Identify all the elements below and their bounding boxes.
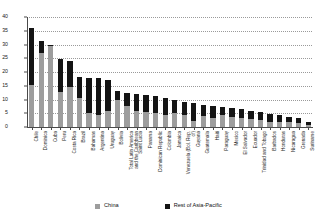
bar-group bbox=[39, 41, 44, 127]
x-axis-category-label: Colombia bbox=[167, 131, 172, 150]
bar-group bbox=[201, 105, 206, 127]
x-axis-tick-mark bbox=[51, 127, 52, 130]
x-axis-category-label: El Salvador bbox=[243, 131, 248, 155]
bar-segment-china bbox=[163, 115, 168, 127]
x-axis-category-label: Bolivia bbox=[119, 131, 124, 145]
bar-group bbox=[124, 93, 129, 127]
bar-group bbox=[191, 103, 196, 127]
x-axis-category-label: Dominican Republic bbox=[158, 131, 163, 172]
bar-group bbox=[258, 112, 263, 127]
bar-segment-rest-of-asia-pacific bbox=[96, 78, 101, 115]
bar-segment-china bbox=[58, 92, 63, 127]
x-axis-category-label: Peru bbox=[62, 131, 67, 141]
bar-group bbox=[210, 106, 215, 127]
bar-segment-china bbox=[248, 119, 253, 127]
x-axis-tick-mark bbox=[99, 127, 100, 130]
bar-segment-china bbox=[134, 111, 139, 127]
x-axis-labels: ChileDominicaCubaPeruCosta RicaBrazilBah… bbox=[27, 131, 313, 201]
bar-segment-china bbox=[48, 46, 53, 127]
y-axis-tick-label: 35 bbox=[0, 28, 8, 33]
x-axis-category-label: Grenada bbox=[301, 131, 306, 149]
x-axis-tick-mark bbox=[270, 127, 271, 130]
bar-group bbox=[153, 96, 158, 127]
legend-item: Rest of Asia-Pacific bbox=[165, 203, 222, 209]
y-axis-tick-label: 5 bbox=[0, 111, 8, 116]
y-axis-tick-label: 20 bbox=[0, 69, 8, 74]
bar-segment-rest-of-asia-pacific bbox=[248, 111, 253, 120]
bar-segment-rest-of-asia-pacific bbox=[210, 106, 215, 118]
x-axis-tick-mark bbox=[184, 127, 185, 130]
bar-segment-china bbox=[229, 117, 234, 127]
bar-segment-rest-of-asia-pacific bbox=[67, 61, 72, 87]
bar-segment-china bbox=[258, 120, 263, 127]
bar-segment-china bbox=[153, 113, 158, 127]
x-axis-tick-mark bbox=[213, 127, 214, 130]
x-axis-tick-mark bbox=[146, 127, 147, 130]
bar-group bbox=[105, 80, 110, 127]
x-axis-category-label: Cuba bbox=[53, 131, 58, 142]
bar-segment-china bbox=[96, 115, 101, 127]
legend-swatch bbox=[165, 204, 170, 209]
x-axis-category-label: Argentina bbox=[100, 131, 105, 151]
x-axis-category-label: Venezuela (Bol. Rep. of) bbox=[186, 131, 196, 175]
x-axis-category-label: Bahamas bbox=[91, 131, 96, 150]
bar-segment-rest-of-asia-pacific bbox=[229, 108, 234, 117]
x-axis-category-label: Suriname bbox=[310, 131, 315, 151]
bar-segment-china bbox=[143, 112, 148, 127]
bar-segment-rest-of-asia-pacific bbox=[58, 59, 63, 91]
x-axis-tick-mark bbox=[137, 127, 138, 130]
x-axis-tick-mark bbox=[280, 127, 281, 130]
x-axis-category-label: Mexico bbox=[234, 131, 239, 146]
bar-segment-rest-of-asia-pacific bbox=[239, 109, 244, 118]
bar-group bbox=[220, 107, 225, 127]
bar-segment-china bbox=[86, 113, 91, 127]
chart-legend: ChinaRest of Asia-Pacific bbox=[95, 200, 265, 212]
bar-segment-rest-of-asia-pacific bbox=[39, 41, 44, 53]
x-axis-tick-mark bbox=[70, 127, 71, 130]
x-axis-tick-mark bbox=[108, 127, 109, 130]
bar-group bbox=[48, 45, 53, 127]
x-axis-tick-mark bbox=[60, 127, 61, 130]
bar-segment-china bbox=[105, 111, 110, 128]
bar-segment-china bbox=[201, 116, 206, 127]
bar-group bbox=[134, 94, 139, 127]
bar-segment-rest-of-asia-pacific bbox=[105, 80, 110, 110]
bar-group bbox=[163, 98, 168, 127]
bar-group bbox=[248, 111, 253, 127]
x-axis-tick-mark bbox=[203, 127, 204, 130]
bar-segment-china bbox=[172, 113, 177, 127]
x-axis-category-label: Jamaica bbox=[177, 131, 182, 148]
x-axis-tick-mark bbox=[194, 127, 195, 130]
bar-segment-rest-of-asia-pacific bbox=[258, 112, 263, 120]
bar-segment-rest-of-asia-pacific bbox=[153, 96, 158, 113]
bar-segment-china bbox=[220, 115, 225, 127]
y-axis-tick-label: 0 bbox=[0, 124, 8, 129]
bar-segment-rest-of-asia-pacific bbox=[77, 77, 82, 98]
bar-segment-rest-of-asia-pacific bbox=[29, 28, 34, 85]
bar-segment-rest-of-asia-pacific bbox=[124, 93, 129, 106]
x-axis-tick-mark bbox=[79, 127, 80, 130]
x-axis-category-label: Guyana bbox=[196, 131, 201, 147]
x-axis-category-label: Nicaragua bbox=[291, 131, 296, 152]
bar-segment-rest-of-asia-pacific bbox=[201, 105, 206, 117]
bar-segment-china bbox=[115, 100, 120, 128]
x-axis-tick-mark bbox=[89, 127, 90, 130]
bar-group bbox=[296, 118, 301, 127]
legend-swatch bbox=[95, 204, 100, 209]
stacked-bar-chart: 0510152025303540 ChileDominicaCubaPeruCo… bbox=[0, 0, 321, 218]
x-axis-category-label: Costa Rica bbox=[72, 131, 77, 153]
bar-group bbox=[239, 109, 244, 127]
bar-series-container bbox=[27, 17, 313, 127]
bar-segment-rest-of-asia-pacific bbox=[220, 107, 225, 116]
bar-group bbox=[277, 115, 282, 127]
bar-segment-rest-of-asia-pacific bbox=[143, 95, 148, 112]
x-axis-category-label: Chile bbox=[34, 131, 39, 141]
x-axis-tick-mark bbox=[222, 127, 223, 130]
x-axis-tick-mark bbox=[251, 127, 252, 130]
x-axis-category-label: Paraguay bbox=[224, 131, 229, 151]
x-axis-category-label: Dominica bbox=[43, 131, 48, 150]
x-axis-tick-mark bbox=[299, 127, 300, 130]
x-axis-tick-mark bbox=[41, 127, 42, 130]
x-axis-category-label: Saint Lucia bbox=[138, 131, 143, 154]
bar-segment-china bbox=[67, 87, 72, 127]
